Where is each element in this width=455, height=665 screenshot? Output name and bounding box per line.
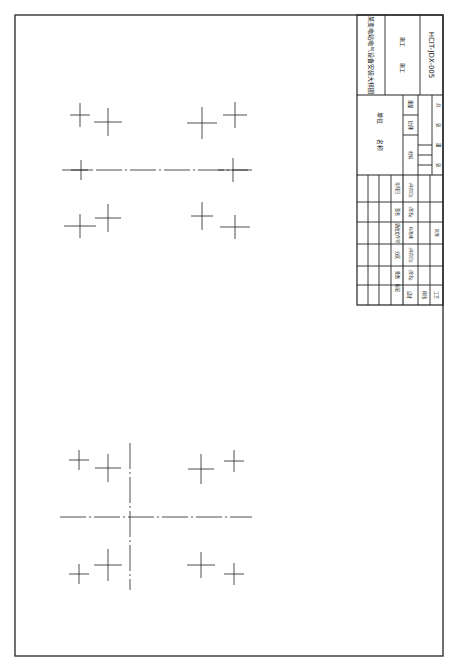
- cross-mark: [94, 549, 122, 581]
- cross-mark: [95, 204, 121, 232]
- drawing-sheet: 某变电站电气设备安装大样图施工施工HCIT-JDX-005单位名称重量比例材料共…: [0, 0, 455, 665]
- drawing-canvas: 某变电站电气设备安装大样图施工施工HCIT-JDX-005单位名称重量比例材料共…: [0, 0, 455, 665]
- sign-col-label: (签名): [408, 206, 414, 218]
- scale-label: 比例: [407, 121, 414, 130]
- sheet-label: 第: [435, 143, 442, 148]
- sign-row-review: 审核: [421, 291, 428, 300]
- cross-mark: [220, 215, 250, 239]
- revision-header: 分区: [394, 251, 401, 259]
- stage-label-2: 施工: [399, 63, 406, 73]
- sign-col-label: 标准化: [408, 227, 414, 239]
- sheet-label: 张: [435, 123, 442, 128]
- crosses: [64, 102, 250, 585]
- cross-mark: [69, 564, 89, 584]
- sign-col-label: (年月日): [408, 247, 414, 263]
- cross-mark: [224, 450, 244, 472]
- cross-mark: [187, 552, 215, 578]
- revision-header: 签名: [394, 208, 401, 216]
- cross-mark: [69, 450, 89, 470]
- sign-row-process: 工艺: [434, 291, 439, 299]
- revision-header: 标记: [394, 284, 401, 293]
- cross-mark: [71, 160, 91, 180]
- revision-header: 处数: [394, 271, 401, 280]
- cross-mark: [188, 454, 214, 484]
- units-label-a: 单位: [376, 112, 384, 124]
- sign-col-label: (年月日): [408, 182, 414, 198]
- cross-mark: [94, 108, 122, 136]
- sign-col-label: (签名): [408, 269, 414, 281]
- sign-col-label: 批准: [434, 229, 440, 237]
- drawing-number: HCIT-JDX-005: [427, 32, 435, 79]
- revision-header: 更改文件号: [394, 223, 401, 243]
- title-block-text: 某变电站电气设备安装大样图施工施工HCIT-JDX-005单位名称重量比例材料共…: [367, 16, 441, 300]
- cross-mark: [223, 102, 247, 128]
- cross-mark: [191, 202, 213, 230]
- cross-mark: [70, 103, 90, 127]
- cross-mark: [224, 563, 244, 585]
- sheet-label: 张: [435, 163, 442, 168]
- revision-header: 年月日: [394, 182, 401, 194]
- cross-mark: [187, 107, 217, 139]
- drawing-title: 某变电站电气设备安装大样图: [367, 16, 375, 94]
- centerlines: [60, 170, 252, 590]
- cross-mark: [218, 158, 248, 182]
- sign-row-design: 设计: [406, 291, 413, 299]
- cross-mark: [64, 214, 96, 238]
- cross-mark: [95, 454, 121, 482]
- stage-label: 施工: [399, 37, 406, 47]
- material-label: 材料: [407, 151, 414, 160]
- sheet-label: 共: [435, 103, 442, 108]
- units-label-b: 名称: [376, 139, 384, 151]
- weight-label: 重量: [407, 100, 414, 109]
